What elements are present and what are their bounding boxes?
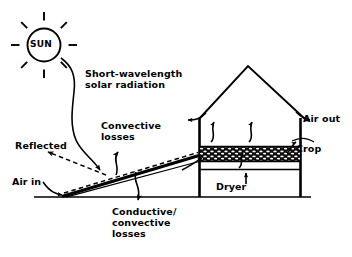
internal-circulation-arrows <box>211 122 214 142</box>
convective-losses-arrow <box>116 152 118 175</box>
internal-circulation-arrow-2 <box>249 122 252 142</box>
barn-roof <box>199 66 305 119</box>
crop-leader-line <box>292 138 314 142</box>
crop-label: Crop <box>296 143 321 154</box>
air-path-dashed <box>64 153 198 194</box>
air-out-label: Air out <box>303 113 340 124</box>
crop-bed <box>199 147 300 162</box>
reflected-arrow <box>48 152 106 175</box>
sun-label: SUN <box>30 39 52 49</box>
air-in-label: Air in <box>12 176 41 187</box>
conductive-convective-losses-arrow <box>135 172 139 200</box>
air-in-arrow <box>43 182 62 195</box>
solar-radiation-label: Short-wavelength solar radiation <box>85 68 182 90</box>
solar-dryer-diagram: SUN Short-wavelength solar radiation Con… <box>0 0 352 257</box>
solar-collector <box>62 153 199 198</box>
conductive-convective-losses-label: Conductive/ convective losses <box>112 206 176 239</box>
dryer-label: Dryer <box>216 181 246 192</box>
reflected-label: Reflected <box>15 140 67 151</box>
convective-losses-label: Convective losses <box>101 120 161 142</box>
